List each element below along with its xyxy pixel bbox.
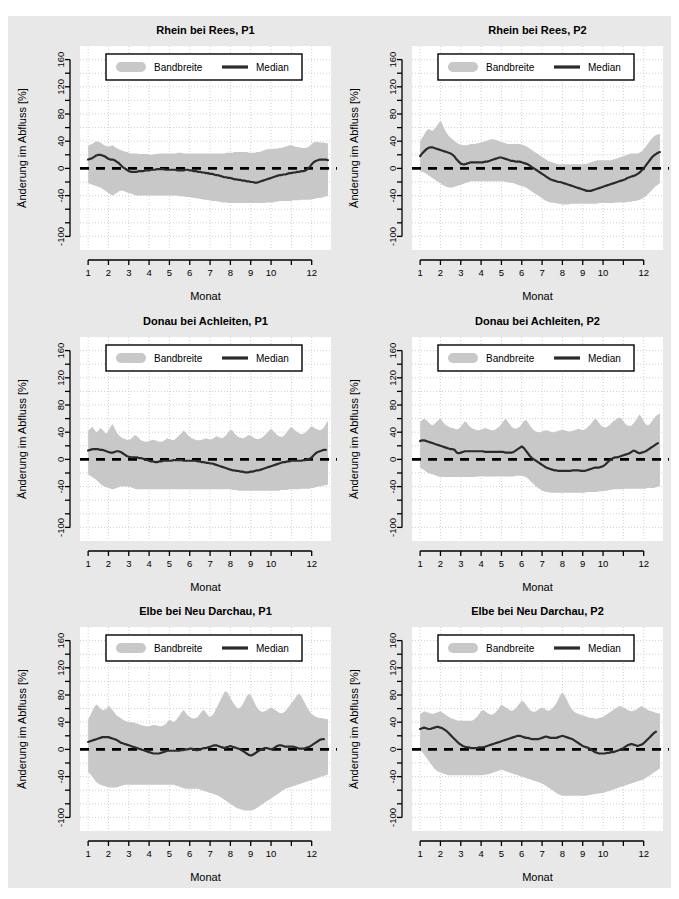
x-tick-label: 8 <box>559 558 564 569</box>
legend-band-swatch <box>448 62 478 72</box>
x-tick-label: 2 <box>106 558 111 569</box>
x-tick-label: 9 <box>248 267 253 278</box>
x-tick-label: 9 <box>248 848 253 859</box>
y-tick-label: 40 <box>55 717 66 728</box>
y-tick-label: 0 <box>386 747 397 752</box>
legend-band-label: Bandbreite <box>154 643 203 654</box>
y-tick-label: 80 <box>386 109 397 120</box>
y-tick-label: -100 <box>386 808 397 827</box>
y-tick-label: -40 <box>386 189 397 203</box>
y-axis-label: Änderung im Abfluss [%] <box>16 88 28 208</box>
x-axis-label: Monat <box>190 581 221 593</box>
x-tick-label: 12 <box>638 267 649 278</box>
x-tick-label: 1 <box>85 848 90 859</box>
x-tick-label: 5 <box>167 848 172 859</box>
y-tick-label: 80 <box>55 399 66 410</box>
y-axis-label: Änderung im Abfluss [%] <box>348 669 360 789</box>
x-tick-label: 6 <box>187 558 192 569</box>
panel-title: Elbe bei Neu Darchau, P2 <box>471 605 604 617</box>
x-tick-label: 1 <box>417 558 422 569</box>
y-tick-label: 0 <box>55 747 66 752</box>
panel-title: Elbe bei Neu Darchau, P1 <box>139 605 272 617</box>
y-tick-label: 40 <box>386 717 397 728</box>
x-tick-label: 10 <box>597 848 608 859</box>
x-tick-label: 4 <box>146 267 151 278</box>
chart-panel-rhein-rees-p1: -100-40040801201601234567891012Rhein bei… <box>8 16 340 307</box>
x-tick-label: 3 <box>458 267 463 278</box>
x-tick-label: 5 <box>498 558 503 569</box>
x-tick-label: 9 <box>580 267 585 278</box>
y-tick-label: -40 <box>386 770 397 784</box>
legend-band-swatch <box>116 62 146 72</box>
x-tick-label: 8 <box>559 848 564 859</box>
x-tick-label: 6 <box>519 267 524 278</box>
legend: BandbreiteMedian <box>106 54 302 80</box>
x-tick-label: 7 <box>207 558 212 569</box>
y-tick-label: 120 <box>386 370 397 386</box>
y-tick-label: 80 <box>386 690 397 701</box>
figure-container: -100-40040801201601234567891012Rhein bei… <box>8 16 671 888</box>
panel-grid: -100-40040801201601234567891012Rhein bei… <box>8 16 671 888</box>
x-tick-label: 7 <box>539 267 544 278</box>
y-tick-label: 0 <box>386 456 397 461</box>
chart-svg-donau-achleiten-p1: -100-40040801201601234567891012Donau bei… <box>8 307 339 597</box>
y-tick-label: -100 <box>386 227 397 246</box>
y-tick-label: -100 <box>55 518 66 537</box>
x-tick-label: 6 <box>519 558 524 569</box>
x-tick-label: 12 <box>306 267 317 278</box>
legend-median-label: Median <box>256 643 289 654</box>
panel-title: Donau bei Achleiten, P1 <box>143 315 268 327</box>
x-tick-label: 7 <box>539 848 544 859</box>
legend: BandbreiteMedian <box>106 635 302 661</box>
x-tick-label: 10 <box>266 558 277 569</box>
y-tick-label: 0 <box>55 456 66 461</box>
chart-svg-rhein-rees-p1: -100-40040801201601234567891012Rhein bei… <box>8 16 339 306</box>
y-tick-label: 80 <box>55 690 66 701</box>
y-tick-label: 40 <box>55 427 66 438</box>
x-tick-label: 6 <box>519 848 524 859</box>
y-tick-label: -40 <box>386 479 397 493</box>
legend-band-label: Bandbreite <box>486 353 535 364</box>
x-axis-label: Monat <box>190 290 221 302</box>
x-tick-label: 12 <box>638 558 649 569</box>
x-tick-label: 6 <box>187 267 192 278</box>
legend: BandbreiteMedian <box>106 345 302 371</box>
y-tick-label: 120 <box>55 370 66 386</box>
y-axis-label: Änderung im Abfluss [%] <box>16 669 28 789</box>
x-tick-label: 10 <box>266 848 277 859</box>
y-tick-label: -100 <box>386 518 397 537</box>
y-tick-label: 120 <box>55 79 66 95</box>
legend-median-label: Median <box>588 353 621 364</box>
legend: BandbreiteMedian <box>438 345 634 371</box>
x-tick-label: 4 <box>146 848 151 859</box>
x-tick-label: 4 <box>478 848 483 859</box>
y-tick-label: -40 <box>55 479 66 493</box>
y-tick-label: 160 <box>386 342 397 358</box>
x-tick-label: 5 <box>498 267 503 278</box>
x-tick-label: 12 <box>306 558 317 569</box>
x-axis-label: Monat <box>522 290 553 302</box>
y-tick-label: 80 <box>55 109 66 120</box>
y-axis-label: Änderung im Abfluss [%] <box>348 379 360 499</box>
panel-title: Rhein bei Rees, P2 <box>488 24 586 36</box>
legend-band-label: Bandbreite <box>486 62 535 73</box>
chart-panel-elbe-neu-darchau-p1: -100-40040801201601234567891012Elbe bei … <box>8 597 340 888</box>
x-tick-label: 3 <box>458 848 463 859</box>
x-tick-label: 2 <box>106 848 111 859</box>
x-tick-label: 4 <box>478 558 483 569</box>
x-tick-label: 5 <box>167 267 172 278</box>
x-tick-label: 12 <box>638 848 649 859</box>
x-tick-label: 6 <box>187 848 192 859</box>
panel-title: Rhein bei Rees, P1 <box>156 24 254 36</box>
x-tick-label: 7 <box>539 558 544 569</box>
y-tick-label: 160 <box>55 52 66 68</box>
x-tick-label: 2 <box>106 267 111 278</box>
legend-band-swatch <box>116 643 146 653</box>
x-tick-label: 3 <box>126 267 131 278</box>
x-tick-label: 9 <box>580 558 585 569</box>
legend-band-swatch <box>448 353 478 363</box>
x-tick-label: 1 <box>417 267 422 278</box>
legend-band-swatch <box>116 353 146 363</box>
legend-median-label: Median <box>256 62 289 73</box>
x-tick-label: 10 <box>597 267 608 278</box>
